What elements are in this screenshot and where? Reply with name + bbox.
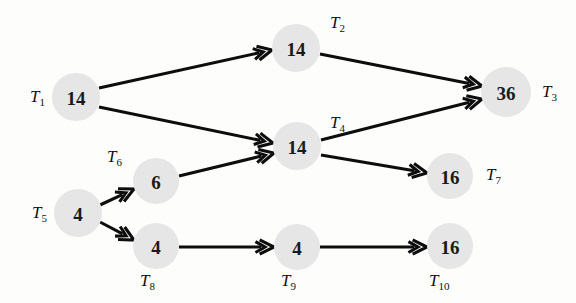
- node-value: 14: [67, 88, 87, 109]
- node-label-subscript: 10: [438, 280, 449, 292]
- node-label-t10: T10: [429, 272, 449, 292]
- node-label-t3: T3: [542, 83, 557, 103]
- node-t1[interactable]: 14: [52, 73, 100, 121]
- edge-line: [99, 107, 260, 140]
- node-label-t7: T7: [486, 166, 501, 186]
- edge-line: [321, 155, 414, 171]
- node-value: 4: [292, 238, 302, 259]
- edge-line: [100, 195, 122, 205]
- node-t7[interactable]: 16: [427, 153, 473, 199]
- node-label-subscript: 1: [39, 96, 45, 108]
- node-value: 4: [73, 204, 83, 225]
- node-label-t5: T5: [32, 204, 47, 224]
- node-label-subscript: 9: [290, 280, 296, 292]
- node-t8[interactable]: 4: [133, 223, 179, 269]
- edge-t1-to-t2: [99, 46, 272, 88]
- node-label-t4: T4: [330, 114, 345, 134]
- edge-t5-to-t6: [100, 189, 134, 205]
- node-value: 16: [441, 167, 460, 188]
- graph-svg: 1414361446164416: [0, 0, 576, 303]
- node-label-subscript: 2: [339, 22, 345, 34]
- edge-t2-to-t3: [320, 54, 482, 90]
- node-label-subscript: 3: [551, 91, 557, 103]
- node-t9[interactable]: 4: [274, 224, 320, 270]
- node-label-subscript: 4: [339, 122, 345, 134]
- node-t6[interactable]: 6: [133, 158, 179, 204]
- node-t5[interactable]: 4: [54, 189, 102, 237]
- node-label-t2: T2: [330, 14, 345, 34]
- node-t2[interactable]: 14: [272, 24, 320, 72]
- node-label-t8: T8: [140, 272, 155, 292]
- edge-line: [100, 222, 123, 234]
- edge-line: [320, 54, 469, 83]
- node-value: 36: [497, 83, 516, 104]
- edge-t4-to-t7: [321, 155, 427, 178]
- node-t3[interactable]: 36: [481, 67, 531, 117]
- edge-line: [99, 53, 259, 88]
- edge-line: [179, 156, 261, 176]
- node-label-subscript: 8: [149, 280, 155, 292]
- edge-t4-to-t3: [321, 96, 482, 140]
- node-value: 14: [288, 137, 308, 158]
- node-t10[interactable]: 16: [427, 223, 473, 269]
- node-value: 6: [151, 172, 161, 193]
- node-label-subscript: 7: [495, 174, 501, 186]
- edge-t8-to-t9: [179, 240, 274, 254]
- edge-t5-to-t8: [100, 222, 134, 240]
- node-value: 4: [151, 237, 161, 258]
- edge-t6-to-t4: [179, 149, 274, 176]
- node-label-t1: T1: [30, 88, 45, 108]
- node-value: 16: [441, 237, 460, 258]
- node-t4[interactable]: 14: [273, 122, 321, 170]
- node-value: 14: [287, 39, 307, 60]
- diagram-canvas: 1414361446164416 T1T2T3T4T5T6T7T8T9T10: [0, 0, 576, 303]
- node-label-t9: T9: [281, 272, 296, 292]
- node-label-subscript: 6: [116, 156, 122, 168]
- edge-t9-to-t10: [320, 240, 427, 254]
- edge-t1-to-t4: [99, 107, 273, 147]
- node-label-subscript: 5: [41, 212, 47, 224]
- node-label-t6: T6: [107, 148, 122, 168]
